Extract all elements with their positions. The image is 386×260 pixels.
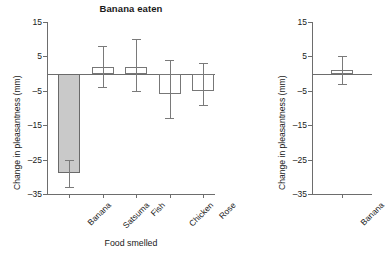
x-tick-label-right-0: Banana — [358, 200, 385, 227]
x-tick-left-0 — [69, 194, 70, 198]
y-axis-label-right: Change in pleasantness (mm) — [277, 75, 287, 190]
y-tick-label-right-5: –35 — [293, 189, 307, 199]
y-tick-left-0 — [43, 22, 47, 23]
y-tick-label-left-1: 5 — [37, 51, 42, 61]
error-bar-left-fish — [136, 39, 137, 91]
chart-panel-left: Banana eaten Change in pleasantness (mm)… — [0, 0, 225, 260]
bar-left-banana — [58, 74, 80, 174]
plot-area-left: 155–5–15–25–35BananaSatsumaFishChickenRo… — [47, 22, 215, 194]
y-axis-label-left: Change in pleasantness (mm) — [12, 75, 22, 190]
x-tick-right-0 — [342, 194, 343, 198]
x-axis-label-left: Food smelled — [47, 238, 215, 248]
error-cap-left-rose-high — [199, 63, 208, 64]
y-axis-line-left — [47, 22, 48, 194]
y-tick-label-right-2: –5 — [298, 86, 307, 96]
y-tick-label-left-4: –25 — [28, 155, 42, 165]
y-tick-right-2 — [308, 91, 312, 92]
x-tick-label-left-0: Banana — [85, 200, 112, 227]
x-axis-line-left — [47, 194, 215, 195]
error-cap-left-chicken-high — [165, 60, 174, 61]
y-tick-label-right-4: –25 — [293, 155, 307, 165]
error-cap-left-fish-high — [132, 39, 141, 40]
y-tick-label-left-3: –15 — [28, 120, 42, 130]
y-tick-right-0 — [308, 22, 312, 23]
error-cap-left-banana-low — [65, 187, 74, 188]
y-tick-label-right-0: 15 — [298, 17, 307, 27]
plot-area-right: 155–5–15–25–35Banana — [312, 22, 372, 194]
x-tick-left-1 — [103, 194, 104, 198]
y-tick-left-2 — [43, 91, 47, 92]
error-cap-right-banana-high — [338, 56, 347, 57]
y-tick-right-4 — [308, 160, 312, 161]
error-bar-left-satsuma — [103, 46, 104, 87]
x-tick-left-2 — [136, 194, 137, 198]
y-tick-right-3 — [308, 125, 312, 126]
y-tick-label-left-5: –35 — [28, 189, 42, 199]
x-tick-left-3 — [170, 194, 171, 198]
y-tick-left-4 — [43, 160, 47, 161]
y-axis-line-right — [312, 22, 313, 194]
y-tick-left-1 — [43, 56, 47, 57]
error-bar-left-chicken — [170, 60, 171, 118]
error-bar-right-banana — [342, 56, 343, 84]
error-cap-left-satsuma-high — [98, 46, 107, 47]
error-cap-left-satsuma-low — [98, 87, 107, 88]
error-bar-left-banana — [69, 160, 70, 188]
chart-title-left: Banana eaten — [47, 3, 215, 14]
y-tick-right-1 — [308, 56, 312, 57]
x-tick-left-4 — [203, 194, 204, 198]
chart-panel-right: Change in pleasantness (mm) 155–5–15–25–… — [225, 0, 345, 260]
y-tick-label-left-0: 15 — [33, 17, 42, 27]
error-cap-left-rose-low — [199, 105, 208, 106]
y-tick-label-right-1: 5 — [302, 51, 307, 61]
error-cap-left-chicken-low — [165, 118, 174, 119]
x-tick-label-left-3: Chicken — [187, 200, 215, 228]
x-tick-label-left-1: Satsuma — [120, 200, 150, 230]
error-bar-left-rose — [203, 63, 204, 104]
error-cap-right-banana-low — [338, 84, 347, 85]
y-tick-label-right-3: –15 — [293, 120, 307, 130]
y-tick-label-left-2: –5 — [33, 86, 42, 96]
y-tick-left-3 — [43, 125, 47, 126]
x-tick-label-left-2: Fish — [149, 200, 167, 218]
error-cap-left-fish-low — [132, 91, 141, 92]
error-cap-left-banana-high — [65, 160, 74, 161]
